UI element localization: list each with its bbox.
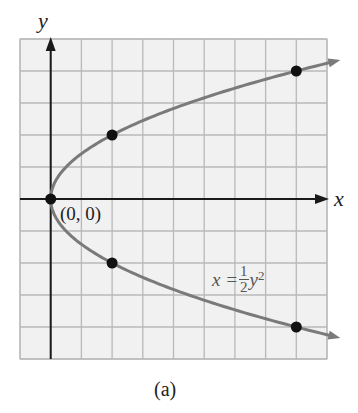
y-axis-label: y (38, 8, 48, 34)
data-point (45, 194, 56, 205)
equation-rhs: y (250, 269, 258, 291)
fraction-numerator: 1 (239, 264, 249, 280)
fraction-denominator: 2 (240, 280, 248, 295)
equation-exponent: 2 (258, 268, 265, 284)
data-point (107, 258, 118, 269)
data-point (291, 66, 302, 77)
data-point (291, 322, 302, 333)
figure-caption: (a) (154, 378, 176, 401)
equation-lhs: x = (212, 269, 238, 291)
data-point (107, 130, 118, 141)
x-axis-label: x (334, 186, 344, 212)
parabola-chart (0, 0, 358, 413)
equation-fraction: 1 2 (239, 264, 249, 295)
equation-label: x = 1 2 y 2 (212, 264, 264, 295)
origin-label: (0, 0) (60, 203, 101, 225)
